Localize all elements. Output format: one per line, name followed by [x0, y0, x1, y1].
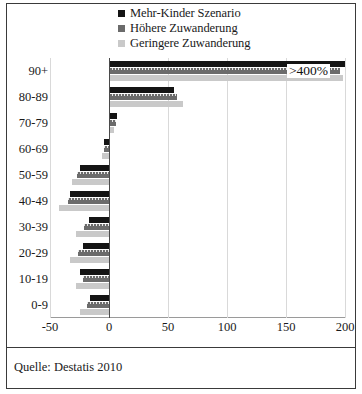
bar — [109, 120, 116, 126]
x-axis-tick-label: 50 — [162, 320, 175, 335]
x-axis-tick-label: -50 — [42, 320, 59, 335]
bar-group — [50, 110, 345, 136]
bar-group — [50, 240, 345, 266]
x-axis-labels: -50050100150200 — [50, 320, 345, 340]
bar — [70, 257, 109, 263]
bar — [83, 243, 109, 249]
bar-group — [50, 188, 345, 214]
bar — [83, 276, 109, 282]
y-axis-tick-label: 30-39 — [19, 220, 48, 235]
bar — [109, 101, 183, 107]
legend-item-1: Höhere Zuwanderung — [118, 21, 318, 36]
y-axis-tick-label: 0-9 — [31, 298, 48, 313]
bar — [78, 250, 109, 256]
bar-group — [50, 136, 345, 162]
y-axis-tick-label: 60-69 — [19, 142, 48, 157]
legend-swatch-icon-1 — [118, 25, 125, 32]
source-caption: Quelle: Destatis 2010 — [14, 360, 122, 375]
caption-divider — [7, 347, 355, 348]
figure-container: Mehr-Kinder Szenario Höhere Zuwanderung … — [0, 0, 362, 394]
bar — [80, 165, 110, 171]
bar-group — [50, 214, 345, 240]
y-axis-tick-label: 80-89 — [19, 90, 48, 105]
legend-label-1: Höhere Zuwanderung — [130, 21, 238, 36]
y-axis-labels: 90+80-8970-7960-6950-5940-4930-3920-2910… — [6, 58, 48, 318]
y-axis-tick-label: 10-19 — [19, 272, 48, 287]
bar — [70, 191, 109, 197]
legend-item-2: Geringere Zuwanderung — [118, 36, 318, 51]
bar — [76, 283, 109, 289]
legend-label-0: Mehr-Kinder Szenario — [130, 6, 241, 21]
bar-group — [50, 84, 345, 110]
bar — [80, 309, 110, 315]
bar — [72, 179, 109, 185]
bar — [90, 295, 109, 301]
bar — [102, 153, 109, 159]
x-axis-tick-label: 200 — [336, 320, 355, 335]
bar — [76, 231, 109, 237]
y-axis-tick-label: 70-79 — [19, 116, 48, 131]
legend-swatch-icon-2 — [118, 40, 125, 47]
legend-label-2: Geringere Zuwanderung — [130, 36, 250, 51]
y-axis-tick-label: 50-59 — [19, 168, 48, 183]
bar-value-annotation: >400% — [287, 64, 330, 78]
chart-legend: Mehr-Kinder Szenario Höhere Zuwanderung … — [118, 6, 318, 51]
bar-group — [50, 292, 345, 318]
y-axis-tick-label: 20-29 — [19, 246, 48, 261]
gridline-200 — [345, 58, 346, 318]
bar — [109, 113, 117, 119]
y-axis-tick-label: 40-49 — [19, 194, 48, 209]
x-axis-tick-label: 0 — [106, 320, 112, 335]
bar — [89, 217, 109, 223]
x-axis-tick-label: 150 — [277, 320, 296, 335]
bar — [80, 269, 110, 275]
x-axis-tick-label: 100 — [218, 320, 237, 335]
legend-swatch-icon-0 — [118, 10, 125, 17]
bar — [109, 87, 174, 93]
plot-inner: >400% — [50, 58, 345, 318]
plot-area: >400% — [50, 58, 345, 318]
bar-group — [50, 162, 345, 188]
bar — [84, 224, 109, 230]
bar — [77, 172, 109, 178]
bar — [109, 94, 177, 100]
legend-item-0: Mehr-Kinder Szenario — [118, 6, 318, 21]
bar — [68, 198, 109, 204]
bar-group — [50, 266, 345, 292]
zero-axis-line — [109, 58, 110, 318]
bar — [59, 205, 109, 211]
bar — [87, 302, 109, 308]
y-axis-tick-label: 90+ — [28, 64, 48, 79]
